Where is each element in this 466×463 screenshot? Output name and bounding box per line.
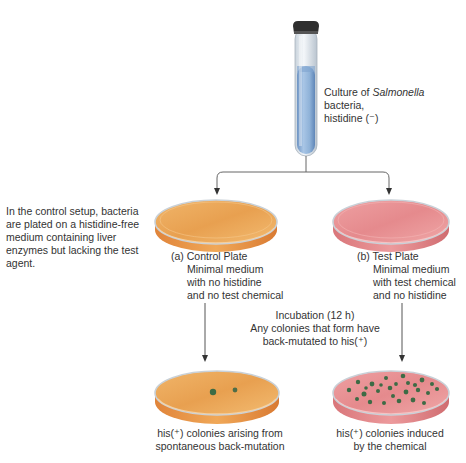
culture-label: Culture of Salmonella bacteria, histidin… <box>324 86 466 125</box>
split-connector <box>217 156 389 190</box>
control-down-arrow <box>202 303 208 362</box>
test-plate-caption: (b) Test Plate Minimal medium with test … <box>357 250 456 302</box>
test-result-plate <box>333 371 449 424</box>
test-result-caption: his(⁺) colonies induced by the chemical <box>320 427 460 453</box>
control-result-plate <box>155 371 279 424</box>
control-result-caption: his(⁺) colonies arising from spontaneous… <box>140 427 300 453</box>
incubation-note: Incubation (12 h) Any colonies that form… <box>230 309 400 348</box>
control-plate <box>155 200 277 252</box>
species-name: Salmonella <box>372 86 424 98</box>
test-tube-icon <box>293 21 319 156</box>
colony-icon <box>233 388 238 393</box>
arrow-to-control-icon <box>214 188 220 195</box>
arrow-to-test-icon <box>386 188 392 195</box>
colony-icon <box>210 389 216 395</box>
test-plate-title: (b) Test Plate <box>357 250 456 263</box>
control-plate-caption: (a) Control Plate Minimal medium with no… <box>171 250 283 302</box>
control-plate-title: (a) Control Plate <box>171 250 283 263</box>
control-setup-note: In the control setup, bacteria are plate… <box>6 205 156 270</box>
test-plate <box>333 200 449 252</box>
